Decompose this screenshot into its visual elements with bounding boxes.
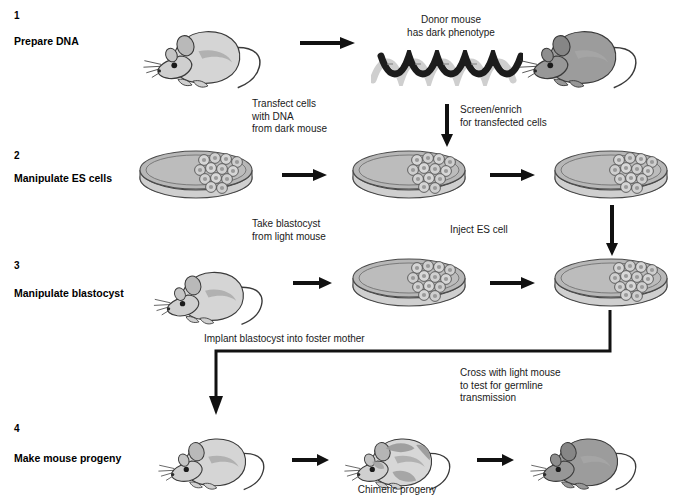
arrow-right-icon [300, 36, 356, 50]
arrow-right-icon [490, 168, 536, 182]
step-2-number: 2 [14, 150, 20, 162]
dna-double-helix-icon [371, 50, 523, 86]
dark-mouse-icon [524, 423, 650, 499]
arrow-right-icon [293, 276, 333, 290]
caption-transfect: Transfect cells with DNA from dark mouse [252, 98, 372, 136]
caption-take-blastocyst: Take blastocyst from light mouse [252, 218, 382, 243]
caption-donor-mouse: Donor mouse has dark phenotype [381, 14, 521, 39]
arrow-right-icon [490, 276, 536, 290]
arrow-right-icon [282, 168, 328, 182]
caption-chimeric-progeny: Chimeric progeny [327, 484, 467, 497]
petri-dish-icon [349, 148, 471, 202]
light-mouse-icon [152, 423, 278, 499]
step-1-number: 1 [14, 10, 20, 22]
step-2-label: Manipulate ES cells [14, 172, 112, 185]
diagram-canvas: 1 Prepare DNA Donor mouse has dark pheno… [0, 0, 673, 502]
arrow-right-icon [477, 453, 515, 467]
caption-cross-with-light-mouse: Cross with light mouse to test for germl… [460, 367, 630, 405]
step-4-number: 4 [14, 423, 20, 435]
step-3-label: Manipulate blastocyst [14, 287, 124, 300]
arrow-down-icon [605, 205, 619, 257]
petri-dish-icon [551, 148, 673, 202]
arrow-down-icon [440, 104, 454, 148]
step-3-number: 3 [14, 260, 20, 272]
dark-mouse-icon [512, 14, 652, 98]
arrow-right-icon [292, 453, 330, 467]
step-1-label: Prepare DNA [14, 35, 79, 48]
step-4-label: Make mouse progeny [14, 452, 121, 465]
caption-screen-enrich: Screen/enrich for transfected cells [460, 104, 600, 129]
caption-inject-es-cell: Inject ES cell [450, 224, 570, 237]
petri-dish-icon [136, 148, 258, 202]
light-mouse-icon [136, 14, 276, 98]
petri-dish-icon [551, 256, 673, 310]
petri-dish-icon [349, 256, 471, 310]
